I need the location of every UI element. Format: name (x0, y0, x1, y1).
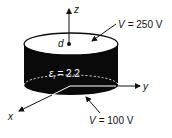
bottom-voltage-pointer (86, 97, 100, 113)
point-d-dot (67, 42, 71, 46)
capacitor-diagram: z d y x εr= 2.2 V= 250 V V= 100 V (0, 0, 172, 138)
point-d-label: d (58, 38, 64, 49)
bottom-voltage-label: V= 100 V (89, 115, 134, 126)
y-axis-label: y (142, 81, 149, 92)
top-voltage-label: V= 250 V (118, 19, 163, 30)
z-axis-label: z (73, 4, 79, 15)
x-axis-label: x (7, 111, 14, 122)
x-axis (19, 95, 52, 111)
permittivity-value: = 2.2 (57, 68, 80, 79)
